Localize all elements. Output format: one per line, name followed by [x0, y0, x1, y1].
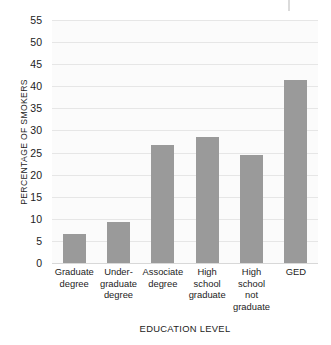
bar-2[interactable]: [151, 145, 174, 263]
y-tick-label-45: 45: [30, 58, 42, 70]
y-tick-label-20: 20: [30, 169, 42, 181]
bar-0[interactable]: [63, 234, 86, 263]
x-axis-tick-labels: GraduatedegreeUnder-graduatedegreeAssoci…: [52, 266, 318, 324]
x-tick-label-5: GED: [268, 266, 324, 278]
bars-layer: [52, 20, 318, 263]
bar-5[interactable]: [284, 80, 307, 263]
y-tick-label-5: 5: [36, 235, 42, 247]
x-tick-label-line: school: [224, 278, 280, 290]
x-tick-label-line: not: [224, 289, 280, 301]
y-tick-label-40: 40: [30, 80, 42, 92]
y-tick-label-15: 15: [30, 191, 42, 203]
bar-4[interactable]: [240, 155, 263, 263]
scan-artifact: [288, 0, 290, 11]
gridline-0: [52, 263, 318, 264]
y-tick-label-50: 50: [30, 36, 42, 48]
x-tick-label-line: graduate: [224, 301, 280, 313]
x-tick-label-line: GED: [268, 266, 324, 278]
bar-3[interactable]: [196, 137, 219, 263]
bar-1[interactable]: [107, 222, 130, 263]
x-tick-label-line: degree: [91, 289, 147, 301]
y-tick-label-25: 25: [30, 147, 42, 159]
x-axis-title: EDUCATION LEVEL: [52, 323, 318, 334]
y-tick-label-35: 35: [30, 102, 42, 114]
y-tick-label-10: 10: [30, 213, 42, 225]
y-tick-label-55: 55: [30, 14, 42, 26]
y-tick-label-30: 30: [30, 124, 42, 136]
chart-plot-area: [52, 20, 318, 263]
y-axis-tick-labels: 0510152025303540455055: [0, 20, 48, 263]
y-tick-label-0: 0: [36, 257, 42, 269]
